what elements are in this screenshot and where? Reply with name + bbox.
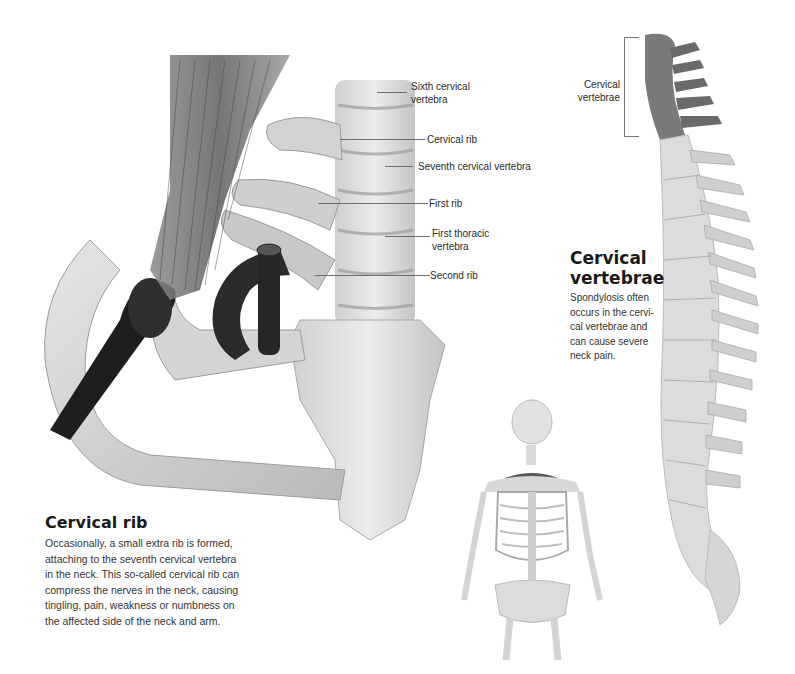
label-line: Cervical — [576, 78, 620, 91]
label-first-rib: First rib — [429, 197, 462, 210]
cervical-rib-textbox: Cervical rib Occasionally, a small extra… — [45, 513, 275, 629]
leader-line-first-thoracic — [385, 236, 430, 237]
cervical-vertebrae-body: Spondylosis often occurs in the cervi- c… — [570, 291, 690, 364]
body-line: Occasionally, a small extra rib is forme… — [45, 536, 275, 552]
cervical-rib-heading: Cervical rib — [45, 513, 275, 533]
body-line: can cause severe — [570, 335, 690, 350]
body-line: compress the nerves in the neck, causing — [45, 583, 275, 599]
label-line: vertebra — [432, 240, 489, 253]
body-line: occurs in the cervi- — [570, 306, 690, 321]
label-line: vertebrae — [576, 91, 620, 104]
body-line: in the neck. This so-called cervical rib… — [45, 567, 275, 583]
cervical-rib-illustration: Sixth cervical vertebra Cervical rib Sev… — [0, 0, 460, 560]
body-line: neck pain. — [570, 349, 690, 364]
body-line: Spondylosis often — [570, 291, 690, 306]
leader-line-seventh — [385, 166, 413, 167]
label-line: vertebra — [411, 93, 470, 106]
anatomy-drawing — [0, 0, 460, 560]
label-seventh-cervical-vertebra: Seventh cervical vertebra — [418, 160, 531, 173]
label-second-rib: Second rib — [430, 269, 478, 282]
heading-line: Cervical — [570, 248, 690, 268]
body-line: the affected side of the neck and arm. — [45, 614, 275, 630]
cervical-vertebrae-heading: Cervical vertebrae — [570, 248, 690, 288]
label-sixth-cervical-vertebra: Sixth cervical vertebra — [411, 80, 470, 106]
cervical-rib-body: Occasionally, a small extra rib is forme… — [45, 536, 275, 629]
label-first-thoracic-vertebra: First thoracic vertebra — [432, 227, 489, 253]
label-line: First thoracic — [432, 227, 489, 240]
leader-line-sixth — [377, 92, 407, 93]
heading-line: vertebrae — [570, 268, 690, 288]
cervical-bracket — [624, 37, 639, 137]
spine-bracket-label: Cervical vertebrae — [576, 78, 620, 104]
cervical-vertebrae-textbox: Cervical vertebrae Spondylosis often occ… — [570, 248, 690, 364]
leader-line-first-rib — [318, 203, 428, 204]
skeleton-drawing — [450, 400, 630, 660]
body-line: attaching to the seventh cervical verteb… — [45, 552, 275, 568]
body-line: tingling, pain, weakness or numbness on — [45, 598, 275, 614]
leader-line-cervical-rib — [340, 139, 425, 140]
leader-line-second-rib — [315, 275, 430, 276]
body-line: cal vertebrae and — [570, 320, 690, 335]
skeleton-figure — [450, 400, 630, 660]
label-line: Sixth cervical — [411, 80, 470, 93]
label-cervical-rib: Cervical rib — [427, 133, 477, 146]
